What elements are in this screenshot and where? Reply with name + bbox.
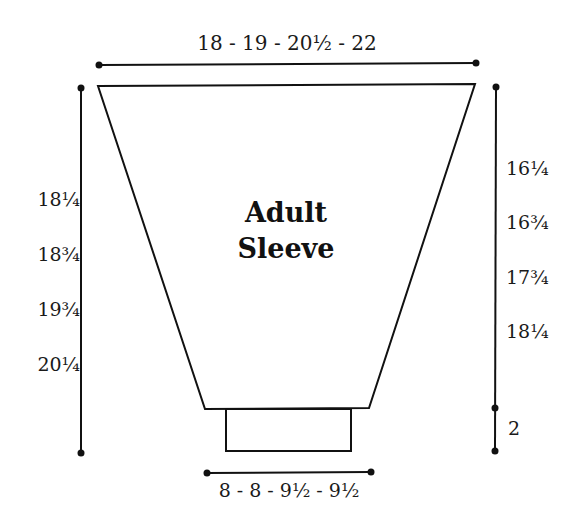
right-length-dimension: 16¼ 16¾ 17¾ 18¼ 2 <box>492 84 549 455</box>
bottom-width-dimension: 8 - 8 - 9½ - 9½ <box>204 469 375 502</box>
cuff-length-label: 2 <box>508 417 520 439</box>
right-length-2: 16¾ <box>506 211 549 233</box>
left-length-2: 18¾ <box>37 243 80 265</box>
left-length-1: 18¼ <box>37 188 80 210</box>
right-length-4: 18¼ <box>506 320 549 342</box>
bottom-width-label: 8 - 8 - 9½ - 9½ <box>219 479 360 501</box>
top-width-label: 18 - 19 - 20½ - 22 <box>197 31 377 55</box>
left-length-dimension: 18¼ 18¾ 19¾ 20¼ <box>37 85 84 457</box>
right-length-3: 17¾ <box>506 266 549 288</box>
sleeve-schematic: 18 - 19 - 20½ - 22 Adult Sleeve 18¼ 18¾ … <box>0 0 579 528</box>
left-length-3: 19¾ <box>37 298 80 320</box>
diagram-title-line2: Sleeve <box>238 233 335 264</box>
top-width-dimension: 18 - 19 - 20½ - 22 <box>96 31 480 69</box>
sleeve-cuff <box>226 409 351 451</box>
diagram-title-line1: Adult <box>244 197 328 228</box>
right-length-1: 16¼ <box>506 157 549 179</box>
left-length-4: 20¼ <box>37 353 80 375</box>
